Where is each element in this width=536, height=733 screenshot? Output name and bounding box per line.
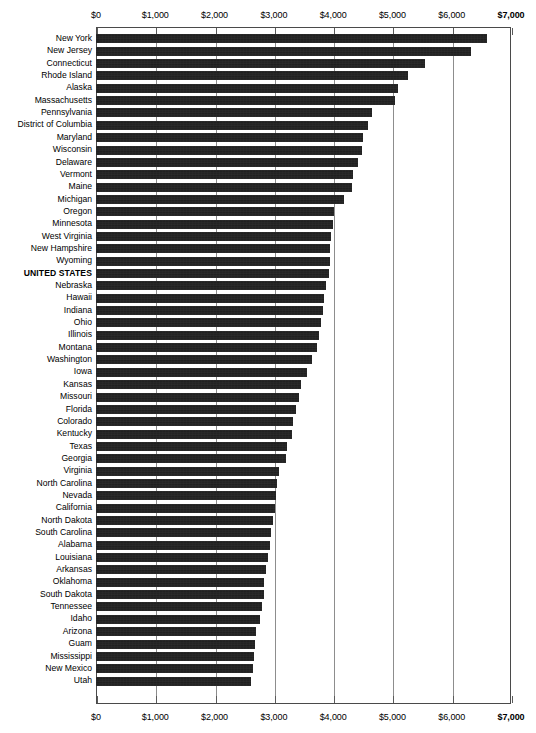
bar-row: Washington [0, 354, 536, 366]
bar-row: Delaware [0, 157, 536, 169]
category-label: Ohio [74, 317, 92, 328]
bar [96, 516, 273, 525]
bar [96, 454, 286, 463]
bar [96, 467, 279, 476]
bar-row: Georgia [0, 453, 536, 465]
bar-row: South Carolina [0, 527, 536, 539]
bar-row: Arizona [0, 626, 536, 638]
x-axis-tick-label: $2,000 [201, 712, 228, 723]
category-label: Pennsylvania [41, 107, 92, 118]
category-label: Mississippi [50, 651, 92, 662]
category-label: Missouri [60, 391, 92, 402]
bar [96, 257, 330, 266]
category-label: Oregon [63, 206, 92, 217]
bar [96, 627, 256, 636]
category-label: Alaska [66, 82, 92, 93]
bar [96, 664, 253, 673]
category-label: North Carolina [37, 478, 92, 489]
bar-row: UNITED STATES [0, 268, 536, 280]
x-axis-tick-label: $3,000 [260, 712, 287, 723]
bar [96, 355, 312, 364]
category-label: Maryland [57, 132, 92, 143]
category-label: Montana [59, 342, 92, 353]
bar [96, 417, 293, 426]
bar [96, 405, 296, 414]
bar-row: West Virginia [0, 231, 536, 243]
bar-row: Nevada [0, 490, 536, 502]
x-axis-tick-label: $2,000 [201, 10, 228, 21]
x-axis-tick-label: $4,000 [320, 712, 347, 723]
bar-row: Connecticut [0, 58, 536, 70]
category-label: Rhode Island [41, 70, 92, 81]
bar [96, 244, 330, 253]
bar-row: North Carolina [0, 478, 536, 490]
x-axis-tick-label: $7,000 [498, 712, 525, 723]
category-label: South Dakota [40, 589, 92, 600]
x-axis-tick-label: $3,000 [260, 10, 287, 21]
category-label: Wyoming [56, 255, 92, 266]
bar [96, 220, 333, 229]
bar [96, 47, 471, 56]
bar-row: Louisiana [0, 552, 536, 564]
bar-row: Mississippi [0, 651, 536, 663]
bar [96, 96, 395, 105]
bar-row: Illinois [0, 329, 536, 341]
bar [96, 553, 268, 562]
category-label: Kansas [63, 379, 92, 390]
category-label: New Mexico [45, 663, 92, 674]
bar-row: Idaho [0, 613, 536, 625]
category-label: Idaho [70, 613, 92, 624]
bar [96, 306, 323, 315]
x-axis-tick-label: $0 [91, 712, 101, 723]
bar-row: Oregon [0, 206, 536, 218]
bar [96, 343, 317, 352]
x-axis-tick-label: $5,000 [379, 712, 406, 723]
bar [96, 318, 321, 327]
bar-row: Arkansas [0, 564, 536, 576]
category-label: Connecticut [47, 58, 92, 69]
bar [96, 71, 408, 80]
bar-row: Wyoming [0, 255, 536, 267]
category-label: Maine [69, 181, 92, 192]
bar [96, 183, 352, 192]
category-label: Colorado [57, 416, 92, 427]
category-label: Illinois [68, 329, 92, 340]
category-label: Guam [69, 638, 92, 649]
category-label: California [56, 502, 92, 513]
bar [96, 59, 425, 68]
bar-row: Kansas [0, 379, 536, 391]
category-label: Florida [66, 404, 92, 415]
bar-row: Indiana [0, 305, 536, 317]
bar [96, 121, 368, 130]
bar-row: Minnesota [0, 218, 536, 230]
bar [96, 380, 301, 389]
bar [96, 146, 362, 155]
bar-row: New York [0, 33, 536, 45]
x-axis-tick-label: $0 [91, 10, 101, 21]
category-label: Nebraska [55, 280, 92, 291]
bar-row: Alabama [0, 539, 536, 551]
bar [96, 677, 251, 686]
bar-row: South Dakota [0, 589, 536, 601]
bar-row: Wisconsin [0, 144, 536, 156]
category-label: Tennessee [50, 601, 92, 612]
bar-row: Nebraska [0, 280, 536, 292]
bar-row: Michigan [0, 194, 536, 206]
bar [96, 294, 324, 303]
bar [96, 393, 299, 402]
bar [96, 430, 292, 439]
bar-row: Alaska [0, 82, 536, 94]
bar-row: Colorado [0, 416, 536, 428]
category-label: Hawaii [66, 292, 92, 303]
bar [96, 479, 277, 488]
category-label: District of Columbia [18, 119, 93, 130]
category-label: Louisiana [55, 552, 92, 563]
x-axis-tick-label: $7,000 [498, 10, 525, 21]
category-label: North Dakota [41, 515, 92, 526]
bar [96, 207, 334, 216]
bar-row: North Dakota [0, 515, 536, 527]
bar-row: Rhode Island [0, 70, 536, 82]
bar-row: Maine [0, 181, 536, 193]
x-axis-tick-label: $1,000 [142, 712, 169, 723]
bar [96, 565, 266, 574]
